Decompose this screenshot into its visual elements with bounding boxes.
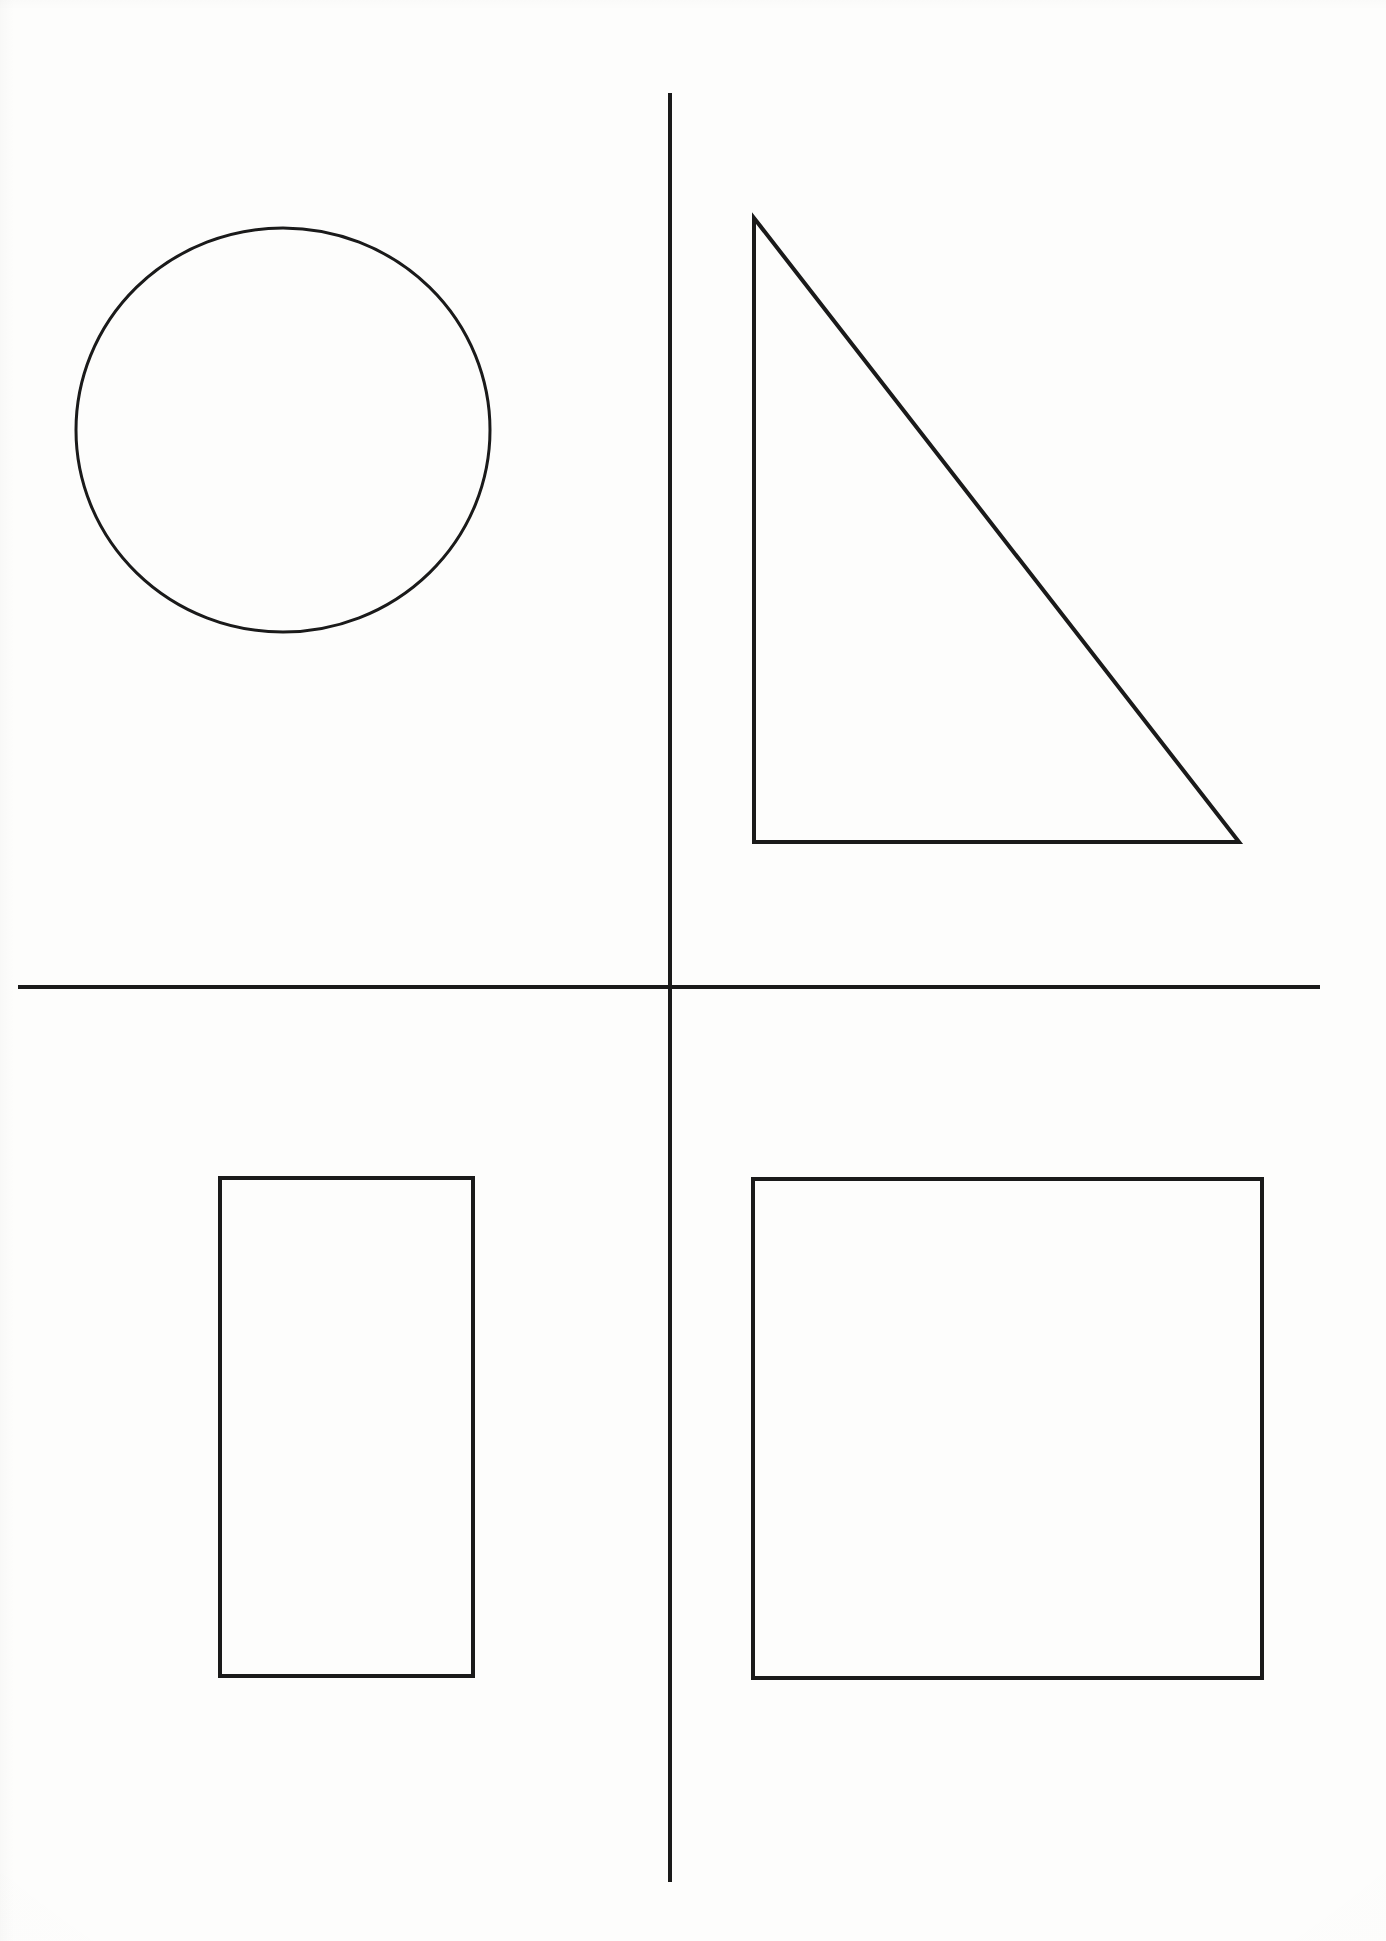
rectangle-shape (220, 1178, 473, 1676)
square-shape (753, 1179, 1262, 1678)
worksheet-page (0, 0, 1386, 1941)
shapes-canvas (0, 0, 1386, 1941)
right-triangle-shape (754, 218, 1239, 842)
circle-shape (76, 228, 490, 632)
